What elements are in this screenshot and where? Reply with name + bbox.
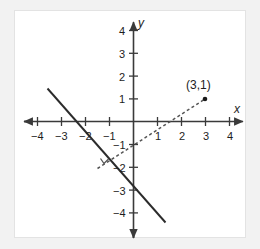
y-axis-label: y — [138, 17, 144, 29]
graph-figure: y x −4 −3 −2 −1 1 2 3 4 4 3 2 1 −1 −2 −3… — [0, 0, 260, 249]
x-tick-label-pos2: 2 — [179, 131, 185, 142]
y-tick-label-neg3: −3 — [113, 186, 126, 197]
x-tick-label-neg3: −3 — [55, 131, 68, 142]
y-tick-label-pos4: 4 — [119, 26, 125, 37]
x-tick-label-pos4: 4 — [227, 131, 233, 142]
plot-frame — [14, 10, 246, 238]
point-label-3-1: (3,1) — [186, 79, 211, 91]
y-tick-label-neg2: −2 — [113, 163, 126, 174]
x-tick-label-pos1: 1 — [155, 131, 161, 142]
y-tick-label-neg1: −1 — [113, 140, 126, 151]
y-tick-label-neg4: −4 — [113, 208, 126, 219]
y-tick-label-pos3: 3 — [119, 49, 125, 60]
x-tick-label-neg2: −2 — [79, 131, 92, 142]
x-tick-label-neg4: −4 — [31, 131, 44, 142]
x-tick-label-pos3: 3 — [203, 131, 209, 142]
y-tick-label-pos1: 1 — [119, 94, 125, 105]
x-axis-label: x — [234, 103, 240, 115]
y-tick-label-pos2: 2 — [119, 72, 125, 83]
